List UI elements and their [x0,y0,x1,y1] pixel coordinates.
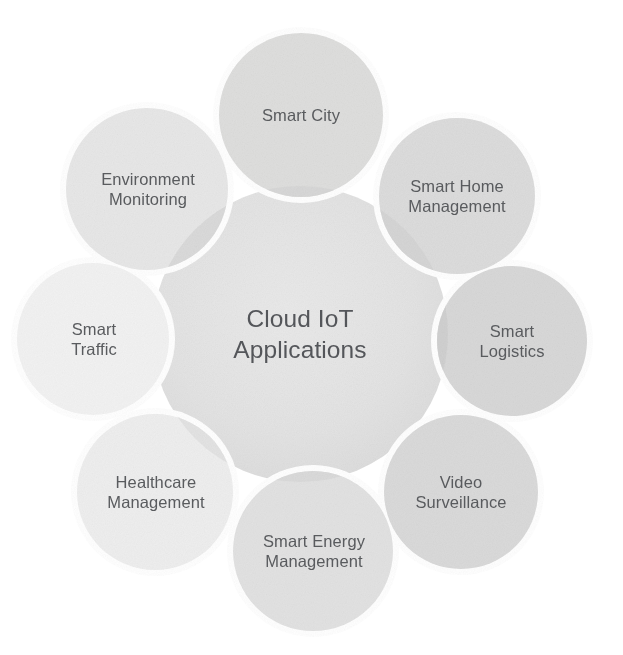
node-smart-logistics[interactable] [437,266,587,416]
node-smart-city[interactable] [219,33,383,197]
node-smart-energy-management[interactable] [233,471,393,631]
node-smart-traffic[interactable] [17,263,169,415]
cloud-iot-applications-diagram: Cloud IoT Applications Smart City Smart … [0,0,623,655]
node-hub-cloud-iot-applications[interactable] [152,186,448,482]
node-video-surveillance[interactable] [384,415,538,569]
